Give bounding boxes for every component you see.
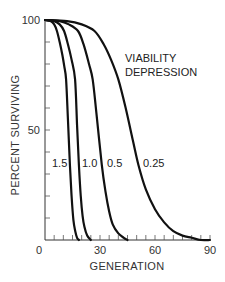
annotation-viability: VIABILITY: [125, 52, 177, 64]
curve-0-5: [45, 20, 128, 240]
y-axis-ticks: [45, 42, 50, 218]
y-tick-label-50: 50: [28, 124, 40, 136]
x-tick-label-60: 60: [149, 244, 161, 256]
y-axis-title: PERCENT SURVIVING: [9, 75, 21, 196]
curve-label-1-5: 1.5: [52, 157, 67, 169]
x-tick-label-90: 90: [204, 244, 216, 256]
x-tick-label-0: 0: [36, 244, 42, 256]
x-axis-title: GENERATION: [90, 260, 165, 272]
survival-chart: 100 50 0 30 60 90 GENERATION PERCENT SUR…: [0, 0, 225, 282]
x-tick-label-30: 30: [94, 244, 106, 256]
curve-label-1-0: 1.0: [82, 157, 97, 169]
curve-1-5: [45, 20, 79, 240]
y-tick-label-100: 100: [22, 14, 40, 26]
curve-label-0-25: 0.25: [143, 157, 164, 169]
curve-label-0-5: 0.5: [107, 157, 122, 169]
annotation-depression: DEPRESSION: [125, 66, 197, 78]
